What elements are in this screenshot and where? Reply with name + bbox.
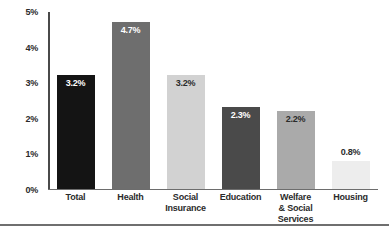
y-axis-line xyxy=(48,12,50,190)
bar-value-label: 0.8% xyxy=(332,147,370,157)
x-axis-label-education: Education xyxy=(213,192,268,203)
x-axis-label-social-insurance: SocialInsurance xyxy=(158,192,213,214)
y-axis-tick-5pct: 5% xyxy=(25,7,38,17)
bar-slot: 4.7% xyxy=(112,22,150,189)
x-axis-label-housing: Housing xyxy=(323,192,378,203)
y-axis-tick-3pct: 3% xyxy=(25,78,38,88)
bar-value-label: 2.3% xyxy=(222,110,260,120)
bar-slot: 2.2% xyxy=(277,111,315,189)
x-axis-label-line: Education xyxy=(213,192,268,203)
y-axis-tick-0pct: 0% xyxy=(25,185,38,195)
x-axis-label-line: Health xyxy=(103,192,158,203)
x-axis-label-line: Housing xyxy=(323,192,378,203)
x-axis-label-health: Health xyxy=(103,192,158,203)
x-axis-label-line: Social xyxy=(158,192,213,203)
bar-value-label: 4.7% xyxy=(112,25,150,35)
bar-value-label: 3.2% xyxy=(167,78,205,88)
plot-area: 3.2%4.7%3.2%2.3%2.2%0.8% xyxy=(48,12,378,190)
x-axis-label-line: Welfare xyxy=(268,192,323,203)
x-axis-label-total: Total xyxy=(48,192,103,203)
bar-slot: 3.2% xyxy=(57,75,95,189)
y-axis-tick-2pct: 2% xyxy=(25,114,38,124)
bar[interactable]: 0.8% xyxy=(332,161,370,189)
x-axis-label-line: Insurance xyxy=(158,203,213,214)
x-axis-label-line: Total xyxy=(48,192,103,203)
bar-slot: 2.3% xyxy=(222,107,260,189)
bar-value-label: 2.2% xyxy=(277,114,315,124)
bar[interactable]: 3.2% xyxy=(57,75,95,189)
bar[interactable]: 4.7% xyxy=(112,22,150,189)
y-axis-tick-1pct: 1% xyxy=(25,149,38,159)
bar[interactable]: 2.2% xyxy=(277,111,315,189)
bottom-divider xyxy=(0,224,389,226)
bar-slot: 0.8% xyxy=(332,161,370,189)
bar[interactable]: 2.3% xyxy=(222,107,260,189)
y-axis-tick-4pct: 4% xyxy=(25,43,38,53)
x-axis-label-welfare-social-services: Welfare& SocialServices xyxy=(268,192,323,225)
chart-figure: 0%1%2%3%4%5% 3.2%4.7%3.2%2.3%2.2%0.8% To… xyxy=(0,0,389,232)
x-axis-line xyxy=(48,189,378,190)
y-axis-tick-labels: 0%1%2%3%4%5% xyxy=(0,12,44,190)
x-axis-label-line: & Social xyxy=(268,203,323,214)
bar[interactable]: 3.2% xyxy=(167,75,205,189)
bar-value-label: 3.2% xyxy=(57,78,95,88)
bar-slot: 3.2% xyxy=(167,75,205,189)
